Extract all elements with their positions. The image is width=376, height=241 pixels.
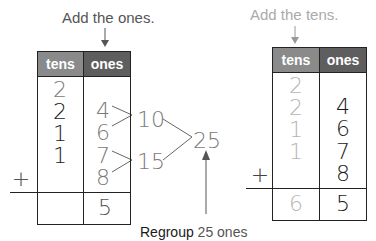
regroup-label: Regroup: [140, 224, 194, 240]
right-result-ones: 5: [328, 193, 358, 215]
right-ones-digit: 7: [328, 141, 358, 163]
right-tens-digit: 2: [281, 97, 311, 119]
right-tens-header: tens: [273, 48, 320, 73]
right-ones-digit: 6: [328, 118, 358, 140]
regroup-caption: Regroup 25 ones: [140, 224, 247, 240]
right-tens-digit: 1: [281, 119, 311, 141]
left-result-ones: 5: [90, 197, 120, 219]
left-column-divider: [83, 51, 84, 225]
right-tens-digit: 1: [281, 141, 311, 163]
left-header-divider: [37, 76, 131, 77]
left-ones-header: ones: [84, 52, 130, 77]
partial-sum-ten: 10: [133, 109, 169, 131]
add-tens-caption: Add the tens.: [250, 6, 338, 23]
right-ones-digit: 8: [328, 163, 358, 185]
left-tens-digit: 1: [45, 123, 75, 145]
total-ones: 25: [192, 130, 222, 152]
left-plus-sign: +: [6, 168, 36, 190]
left-ones-digit: 6: [88, 122, 118, 144]
add-ones-caption: Add the ones.: [62, 9, 155, 26]
left-ones-digit: 4: [88, 100, 118, 122]
left-ones-digit: 7: [88, 145, 118, 167]
right-tens-digit: 2: [281, 75, 311, 97]
partial-sum-fifteen: 15: [133, 151, 169, 173]
left-ones-digit: 8: [88, 167, 118, 189]
right-plus-sign: +: [245, 164, 275, 186]
right-result-tens: 6: [281, 193, 311, 215]
left-tens-header: tens: [38, 52, 84, 77]
left-tens-digit: 1: [45, 145, 75, 167]
regroup-value: 25 ones: [198, 224, 248, 240]
left-tens-digit: 2: [45, 79, 75, 101]
left-sum-line: [10, 192, 131, 193]
right-column-divider: [319, 47, 320, 221]
right-ones-digit: 4: [328, 96, 358, 118]
right-ones-header: ones: [320, 48, 366, 73]
left-tens-digit: 2: [45, 101, 75, 123]
right-sum-line: [246, 188, 367, 189]
